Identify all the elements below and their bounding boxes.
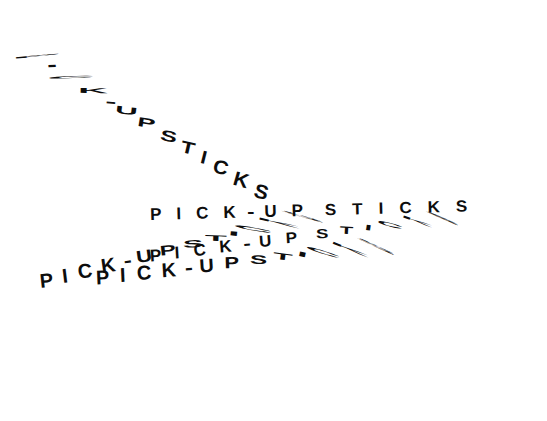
- glyph-i: I: [378, 200, 383, 216]
- glyph-s: S: [250, 253, 268, 266]
- glyph-u: U: [259, 233, 273, 250]
- glyph-s: S: [252, 180, 271, 203]
- glyph-i: I: [45, 64, 59, 68]
- glyph-p: P: [39, 270, 54, 291]
- glyph-i: I: [176, 205, 181, 222]
- glyph-k: K: [232, 168, 252, 191]
- stickline-descending-diagonal: PICK-UPSTICKS: [25, 43, 281, 209]
- glyph-i: I: [364, 223, 373, 232]
- glyph-k: K: [223, 204, 236, 221]
- glyph-t: T: [180, 138, 198, 158]
- glyph-c: C: [193, 241, 207, 259]
- glyph-c: C: [196, 204, 209, 221]
- glyph-i: I: [61, 265, 69, 286]
- glyph-k: K: [219, 238, 233, 256]
- glyph-p: P: [224, 254, 239, 270]
- glyph-c: C: [305, 244, 342, 259]
- glyph-hyphen: -: [242, 235, 251, 252]
- glyph-i: I: [120, 265, 126, 285]
- glyph-p: P: [285, 230, 297, 246]
- glyph-p: P: [149, 247, 161, 265]
- glyph-p: P: [291, 202, 303, 219]
- glyph-s: S: [160, 127, 179, 145]
- glyph-p: P: [96, 267, 110, 288]
- pickup-sticks-poster: PICK-UPSTICKS PICK-UPSTICKS PICK-UPSTICK…: [0, 0, 547, 421]
- glyph-u: U: [264, 203, 277, 220]
- glyph-p: P: [137, 115, 157, 131]
- glyph-k: K: [78, 87, 108, 95]
- glyph-p: P: [11, 53, 61, 59]
- glyph-k: K: [400, 214, 433, 228]
- glyph-t: T: [340, 225, 354, 236]
- glyph-i: I: [296, 250, 308, 259]
- glyph-s: S: [316, 227, 329, 240]
- glyph-c: C: [211, 156, 231, 179]
- glyph-t: T: [352, 201, 363, 217]
- glyph-c: C: [136, 262, 152, 283]
- glyph-hyphen: -: [184, 258, 193, 277]
- glyph-hyphen: -: [247, 203, 255, 220]
- glyph-t: T: [272, 251, 293, 263]
- glyph-i: I: [199, 147, 209, 166]
- glyph-c: C: [46, 75, 95, 80]
- glyph-u: U: [115, 104, 139, 117]
- glyph-s: S: [325, 202, 337, 218]
- glyph-p: P: [150, 206, 162, 223]
- glyph-c: C: [377, 219, 404, 231]
- glyph-c: C: [76, 260, 93, 282]
- glyph-i: I: [175, 244, 181, 261]
